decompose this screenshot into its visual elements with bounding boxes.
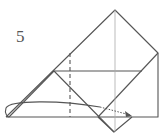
arrow-head-icon (125, 111, 132, 117)
right-inner-edge (98, 53, 158, 117)
origami-fold-diagram (0, 0, 167, 137)
diamond-flap (54, 71, 132, 132)
diamond-left-edge (98, 117, 114, 132)
left-inner-edge (9, 71, 54, 117)
paper-outline (6, 10, 158, 117)
